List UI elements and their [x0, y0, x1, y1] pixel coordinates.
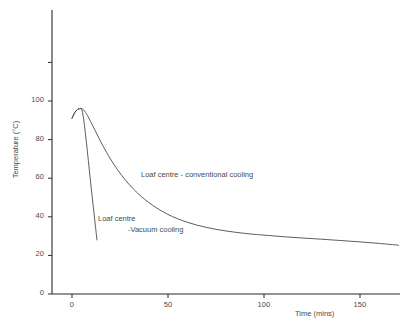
conventional-cooling-label: Loaf centre - conventional cooling — [141, 169, 253, 180]
x-tick-label: 0 — [52, 300, 92, 309]
x-tick-label: 150 — [340, 300, 380, 309]
x-axis-title: Time (mins) — [295, 309, 334, 318]
vacuum-label-line-2: -Vacuum cooling — [98, 224, 183, 235]
y-tick-label: 20 — [6, 249, 44, 258]
y-tick-label: 0 — [6, 288, 44, 297]
series-line-1 — [72, 108, 97, 240]
plot-area — [0, 0, 414, 328]
y-axis-title: Temperature (°C) — [11, 100, 20, 200]
temperature-time-chart: 020406080100 050100150 Temperature (°C) … — [0, 0, 414, 328]
x-tick-label: 100 — [244, 300, 284, 309]
x-tick-label: 50 — [148, 300, 188, 309]
vacuum-label-line-1: Loaf centre — [98, 214, 136, 223]
vacuum-cooling-label: Loaf centre -Vacuum cooling — [98, 213, 183, 235]
y-tick-label: 40 — [6, 211, 44, 220]
